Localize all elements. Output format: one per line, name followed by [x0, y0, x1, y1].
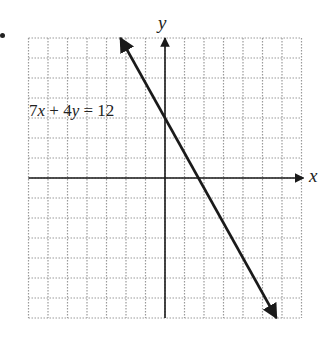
y-axis-label: y — [158, 12, 166, 34]
equation-label: 7x + 4y = 12 — [29, 101, 114, 121]
x-axis-label: x — [309, 165, 317, 187]
coordinate-plane — [0, 0, 333, 339]
